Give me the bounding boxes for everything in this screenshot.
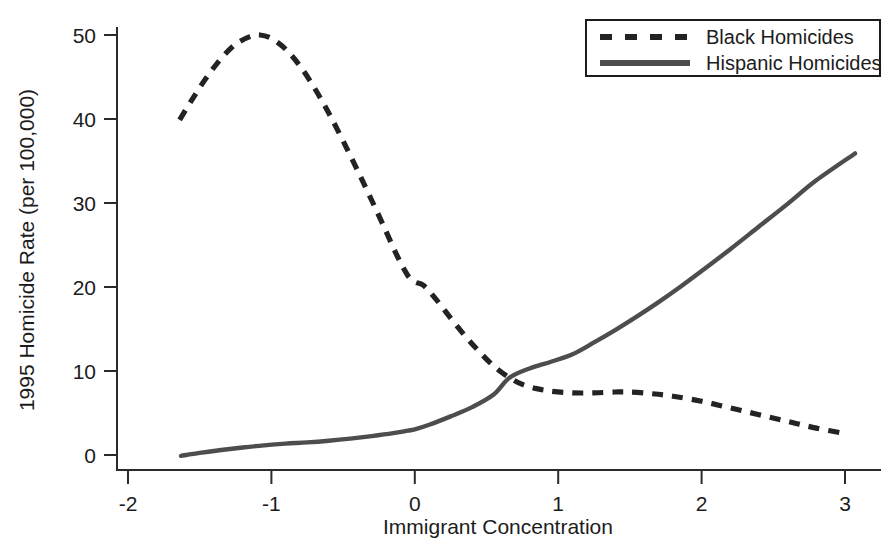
chart-legend: Black Homicides Hispanic Homicides bbox=[586, 20, 882, 76]
y-tick-label-50: 50 bbox=[73, 24, 96, 47]
legend-label-black-homicides: Black Homicides bbox=[706, 26, 854, 48]
y-tick-label-30: 30 bbox=[73, 192, 96, 215]
y-axis-title: 1995 Homicide Rate (per 100,000) bbox=[15, 89, 38, 411]
homicide-rate-line-chart: 01020304050 1995 Homicide Rate (per 100,… bbox=[0, 0, 889, 553]
legend-label-hispanic-homicides: Hispanic Homicides bbox=[706, 52, 882, 74]
x-axis-title: Immigrant Concentration bbox=[383, 515, 613, 538]
y-tick-label-10: 10 bbox=[73, 360, 96, 383]
x-tick-label--2: -2 bbox=[119, 492, 138, 515]
x-tick-label-3: 3 bbox=[839, 492, 851, 515]
y-tick-label-40: 40 bbox=[73, 108, 96, 131]
x-tick-label-1: 1 bbox=[552, 492, 564, 515]
y-tick-label-0: 0 bbox=[84, 444, 96, 467]
x-tick-label-0: 0 bbox=[409, 492, 421, 515]
x-tick-label--1: -1 bbox=[262, 492, 281, 515]
x-tick-label-2: 2 bbox=[696, 492, 708, 515]
y-tick-label-20: 20 bbox=[73, 276, 96, 299]
chart-page: 01020304050 1995 Homicide Rate (per 100,… bbox=[0, 0, 889, 553]
